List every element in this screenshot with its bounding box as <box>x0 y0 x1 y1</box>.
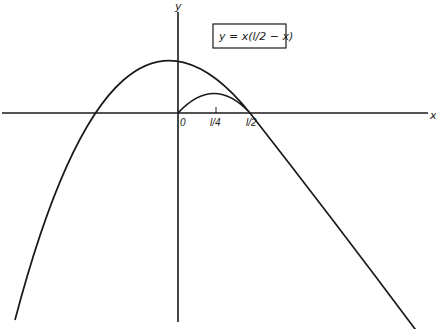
equation-label: y = x(l/2 − x) <box>218 30 293 43</box>
quarter-label: l/4 <box>210 117 221 128</box>
parabola-chart: y x 0 l/4 l/2 y = x(l/2 − x) <box>0 0 436 329</box>
parabola-curve <box>15 61 421 329</box>
origin-label: 0 <box>180 117 186 128</box>
y-axis-label: y <box>174 0 182 13</box>
x-axis-label: x <box>429 109 436 122</box>
